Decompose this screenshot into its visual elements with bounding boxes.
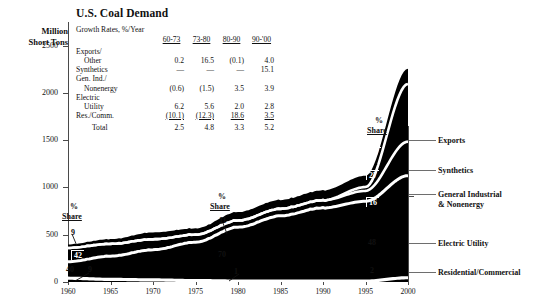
x-axis-tick-label: 1985 <box>261 287 301 296</box>
area-bands <box>68 69 408 282</box>
x-axis-tick-label: 2000 <box>388 287 428 296</box>
x-axis-tick-label: 1995 <box>346 287 386 296</box>
x-axis-tick-label: 1990 <box>303 287 343 296</box>
residential-leader-left <box>74 272 90 282</box>
legend-item-label: Synthetics <box>438 166 473 175</box>
exports-leader-left <box>71 233 78 247</box>
left-share-value-general-industrial: 40 <box>66 265 74 274</box>
right-share-label: Share <box>367 126 387 135</box>
x-axis-tick-label: 1965 <box>91 287 131 296</box>
coal-demand-chart: U.S. Coal Demand Million Short Tons Grow… <box>0 0 536 305</box>
right-share-value-synthetics: 27 <box>366 170 379 180</box>
x-axis-tick-label: 1975 <box>176 287 216 296</box>
page-title: U.S. Coal Demand <box>76 7 168 19</box>
right-share-value-general-industrial: 16 <box>366 197 379 207</box>
legend-leader-line <box>409 243 436 244</box>
x-axis-tick-label: 1960 <box>48 287 88 296</box>
y-axis-tick-label: 1500 <box>14 135 58 144</box>
left-share-label: Share <box>62 212 82 221</box>
legend-item-label-line1: General Industrial <box>438 190 502 200</box>
middle-share-value-electric-utility: 70 <box>218 250 226 259</box>
x-axis-tick <box>408 281 409 285</box>
y-axis-tick-label: 2500 <box>14 41 58 50</box>
legend-item[interactable]: Residential/Commercial <box>438 268 521 278</box>
left-share-value-electric-utility: 42 <box>71 250 84 260</box>
y-axis-tick-label: 500 <box>14 230 58 239</box>
legend-item-label: Electric Utility <box>438 239 488 248</box>
legend-item[interactable]: Electric Utility <box>438 239 488 249</box>
legend-leader-line <box>409 272 436 273</box>
legend-item-label-line2: & Nonenergy <box>438 200 502 210</box>
right-share-value-electric-utility: 48 <box>368 238 376 247</box>
residential-leader-middle <box>228 273 240 282</box>
right-share-percent-symbol: % <box>375 116 383 125</box>
legend-leader-line <box>409 140 436 141</box>
right-share-value-exports: 7 <box>372 147 381 157</box>
middle-share-label: Share <box>210 202 230 211</box>
y-axis-tick-label: 2000 <box>14 88 58 97</box>
legend-item-label: Exports <box>438 136 465 145</box>
left-share-percent-symbol: % <box>70 202 78 211</box>
right-axis-tick <box>408 196 414 197</box>
y-axis-right-line <box>408 126 409 282</box>
y-axis-tick-label: 0 <box>14 277 58 286</box>
legend-item[interactable]: Synthetics <box>438 166 473 176</box>
y-axis-title-line1: Million <box>42 26 68 36</box>
exports-leader-middle <box>222 222 228 235</box>
stacked-area-svg <box>68 22 408 282</box>
middle-share-percent-symbol: % <box>218 192 226 201</box>
legend-item[interactable]: General Industrial& Nonenergy <box>438 190 502 210</box>
legend-item[interactable]: Exports <box>438 136 465 146</box>
legend-leader-line <box>409 194 436 195</box>
right-share-value-residential: 2 <box>370 266 374 275</box>
x-axis-tick-label: 1980 <box>218 287 258 296</box>
y-axis-tick-label: 1000 <box>14 182 58 191</box>
x-axis-tick-label: 1970 <box>133 287 173 296</box>
legend-item-label: Residential/Commercial <box>438 268 521 277</box>
legend-leader-line <box>409 170 436 171</box>
plot-area <box>68 22 408 282</box>
